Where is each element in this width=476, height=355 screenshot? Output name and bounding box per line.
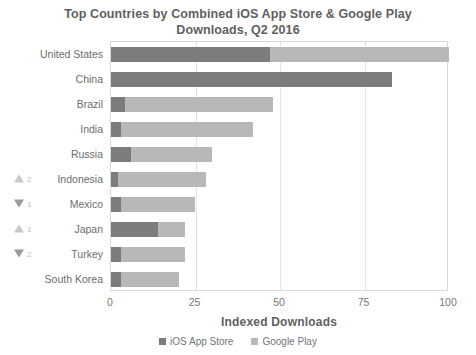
arrow-down-icon [14, 250, 24, 258]
y-axis-category-label: United States [40, 48, 103, 60]
bar-segment-ios-app-store[interactable] [111, 272, 121, 287]
x-axis-tick-label: 100 [439, 296, 457, 308]
legend-item[interactable]: iOS App Store [159, 336, 233, 347]
bar-segment-google-play[interactable] [121, 272, 178, 287]
legend-label: Google Play [262, 336, 316, 347]
bar-segment-google-play[interactable] [270, 47, 449, 62]
stacked-bar[interactable] [111, 47, 449, 62]
y-axis-category-label: China [76, 73, 103, 85]
y-axis-label-row: 1Mexico [0, 191, 110, 216]
rank-change-marker: 1 [14, 224, 31, 233]
bar-segment-ios-app-store[interactable] [111, 247, 121, 262]
y-axis-label-row: Russia [0, 141, 110, 166]
chart-legend: iOS App StoreGoogle Play [0, 336, 476, 347]
bar-row[interactable] [111, 142, 447, 167]
y-axis-label-row: South Korea [0, 266, 110, 291]
bar-row[interactable] [111, 192, 447, 217]
rank-change-marker: 2 [14, 249, 31, 258]
y-axis-label-row: 2Turkey [0, 241, 110, 266]
y-axis-label-row: 2Indonesia [0, 166, 110, 191]
chart-title-line-2: Downloads, Q2 2016 [0, 22, 476, 38]
bar-segment-google-play[interactable] [125, 97, 274, 112]
legend-label: iOS App Store [170, 336, 233, 347]
chart-title-line-1: Top Countries by Combined iOS App Store … [0, 6, 476, 22]
y-axis-category-label: Mexico [70, 198, 103, 210]
y-axis-label-row: China [0, 66, 110, 91]
stacked-bar[interactable] [111, 72, 392, 87]
y-axis-label-row: Brazil [0, 91, 110, 116]
bar-segment-google-play[interactable] [118, 172, 206, 187]
bar-row[interactable] [111, 217, 447, 242]
stacked-bar[interactable] [111, 247, 185, 262]
x-axis-ticks: 0255075100 [0, 296, 476, 310]
y-axis-category-label: Turkey [71, 248, 103, 260]
bar-row[interactable] [111, 242, 447, 267]
bar-segment-ios-app-store[interactable] [111, 197, 121, 212]
x-axis-tick-label: 25 [189, 296, 201, 308]
stacked-bar[interactable] [111, 197, 195, 212]
bar-segment-ios-app-store[interactable] [111, 172, 118, 187]
bar-row[interactable] [111, 92, 447, 117]
y-axis-labels: United StatesChinaBrazilIndiaRussia2Indo… [0, 41, 110, 291]
y-axis-category-label: Indonesia [57, 173, 103, 185]
legend-swatch-icon [251, 338, 258, 345]
x-axis-tick-label: 50 [273, 296, 285, 308]
chart-container: Top Countries by Combined iOS App Store … [0, 0, 476, 355]
chart-title: Top Countries by Combined iOS App Store … [0, 6, 476, 38]
rank-change-amount: 2 [27, 249, 31, 258]
plot-area [110, 41, 448, 291]
y-axis-category-label: Russia [71, 148, 103, 160]
arrow-down-icon [14, 200, 24, 208]
rank-change-amount: 2 [27, 174, 31, 183]
rank-change-amount: 1 [27, 199, 31, 208]
bar-segment-google-play[interactable] [158, 222, 185, 237]
bar-segment-ios-app-store[interactable] [111, 97, 125, 112]
stacked-bar[interactable] [111, 122, 253, 137]
y-axis-label-row: India [0, 116, 110, 141]
y-axis-category-label: Japan [74, 223, 103, 235]
y-axis-label-row: United States [0, 41, 110, 66]
bar-segment-google-play[interactable] [121, 197, 195, 212]
rank-change-marker: 2 [14, 174, 31, 183]
bar-segment-ios-app-store[interactable] [111, 147, 131, 162]
bar-row[interactable] [111, 117, 447, 142]
stacked-bar[interactable] [111, 272, 179, 287]
x-axis-label: Indexed Downloads [110, 315, 448, 329]
legend-item[interactable]: Google Play [251, 336, 316, 347]
bar-segment-ios-app-store[interactable] [111, 72, 392, 87]
arrow-up-icon [14, 225, 24, 233]
bar-segment-google-play[interactable] [121, 122, 253, 137]
bar-row[interactable] [111, 67, 447, 92]
y-axis-category-label: South Korea [45, 273, 103, 285]
legend-swatch-icon [159, 338, 166, 345]
x-axis-tick-label: 75 [358, 296, 370, 308]
bar-row[interactable] [111, 42, 447, 67]
x-axis-tick-label: 0 [107, 296, 113, 308]
y-axis-category-label: India [80, 123, 103, 135]
stacked-bar[interactable] [111, 97, 273, 112]
bar-segment-ios-app-store[interactable] [111, 122, 121, 137]
rank-change-amount: 1 [27, 224, 31, 233]
stacked-bar[interactable] [111, 147, 212, 162]
y-axis-category-label: Brazil [77, 98, 103, 110]
bar-segment-ios-app-store[interactable] [111, 47, 270, 62]
bar-row[interactable] [111, 267, 447, 292]
bar-segment-google-play[interactable] [131, 147, 212, 162]
arrow-up-icon [14, 175, 24, 183]
bars-layer [111, 42, 447, 290]
bar-segment-google-play[interactable] [121, 247, 185, 262]
bar-segment-ios-app-store[interactable] [111, 222, 158, 237]
y-axis-label-row: 1Japan [0, 216, 110, 241]
bar-row[interactable] [111, 167, 447, 192]
stacked-bar[interactable] [111, 172, 206, 187]
rank-change-marker: 1 [14, 199, 31, 208]
stacked-bar[interactable] [111, 222, 185, 237]
